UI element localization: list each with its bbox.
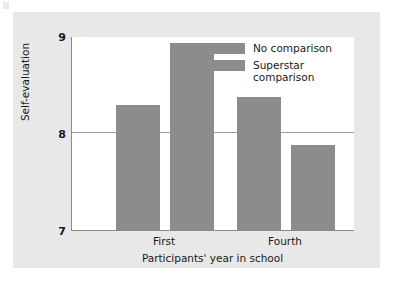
legend-label-no-comparison: No comparison	[253, 42, 332, 54]
chart-legend: No comparison Superstar comparison	[211, 42, 332, 88]
legend-label-superstar-comparison: Superstar comparison	[253, 59, 314, 83]
legend-item-superstar-comparison: Superstar comparison	[211, 59, 332, 83]
x-axis-title: Participants' year in school	[71, 252, 354, 264]
bar-first-no-comparison	[116, 105, 160, 230]
x-tick-first: First	[124, 235, 204, 247]
scan-artifact-speck	[3, 2, 9, 9]
y-axis-title: Self-evaluation	[19, 22, 31, 142]
x-tick-fourth: Fourth	[245, 235, 325, 247]
bar-first-superstar-comparison	[170, 43, 214, 230]
y-tick-7: 7	[58, 226, 66, 237]
y-tick-8: 8	[58, 129, 66, 140]
chart-figure: 9 8 7 Self-evaluation First Fourth Parti…	[0, 0, 408, 287]
bar-fourth-no-comparison	[237, 97, 281, 230]
y-tick-9: 9	[58, 32, 66, 43]
y-axis-ticks: 9 8 7	[48, 37, 66, 231]
legend-swatch-no-comparison	[211, 43, 245, 54]
legend-swatch-superstar-comparison	[211, 60, 245, 71]
bar-fourth-superstar-comparison	[291, 145, 335, 230]
legend-item-no-comparison: No comparison	[211, 42, 332, 54]
